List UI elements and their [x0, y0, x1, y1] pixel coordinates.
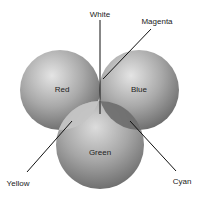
green-label: Green [89, 148, 111, 157]
white-label: White [90, 10, 110, 19]
red-label: Red [55, 85, 70, 94]
spheres-graphic [0, 0, 200, 206]
magenta-label: Magenta [141, 17, 172, 26]
additive-color-diagram: Red Blue Green White Magenta Yellow Cyan [0, 0, 200, 206]
yellow-label: Yellow [7, 179, 30, 188]
cyan-label: Cyan [173, 177, 192, 186]
blue-label: Blue [131, 85, 147, 94]
